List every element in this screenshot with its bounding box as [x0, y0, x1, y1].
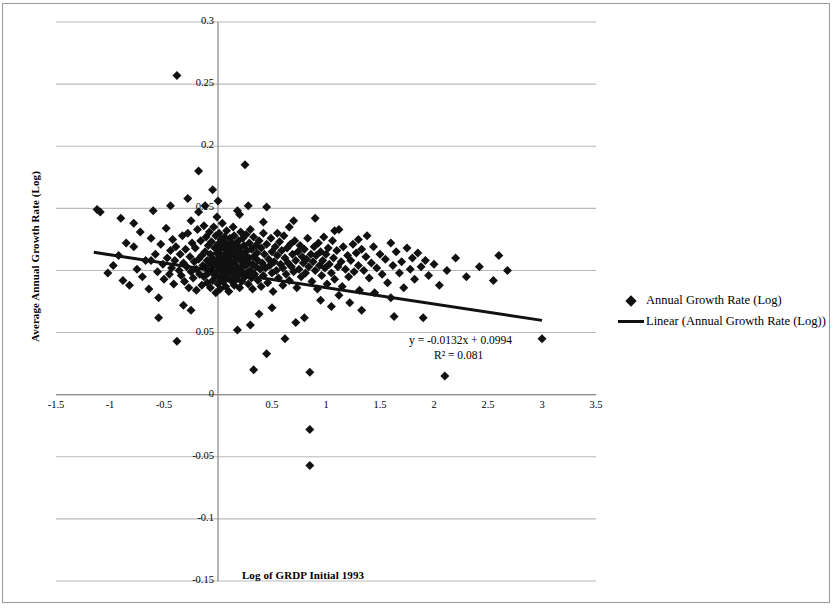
gridlines-group [56, 22, 596, 581]
x-tick-label: 3 [522, 399, 562, 410]
x-axis-title-text: Log of GRDP Initial 1993 [242, 569, 364, 581]
x-tick-label: 0.5 [252, 399, 292, 410]
y-tick-label: 0.2 [172, 139, 214, 150]
legend-item-scatter[interactable]: Annual Growth Rate (Log) [618, 290, 826, 311]
y-tick-label: 0.3 [172, 15, 214, 26]
axis-lines-group [56, 22, 596, 581]
r-squared-label: R² = 0.081 [434, 349, 483, 361]
scatter-chart-figure: -0.15-0.1-0.0500.050.10.150.20.250.3 -1.… [0, 0, 834, 613]
x-tick-label: 1 [306, 399, 346, 410]
x-tick-label: 2 [414, 399, 454, 410]
y-tick-label: -0.05 [172, 450, 214, 461]
y-tick-label: -0.1 [172, 512, 214, 523]
y-tick-label: 0.1 [172, 263, 214, 274]
line-marker-icon [618, 320, 644, 324]
y-tick-label: 0.05 [172, 326, 214, 337]
y-axis-title: Average Annual Growth Rate (Log) [29, 162, 42, 352]
y-axis-title-text: Average Annual Growth Rate (Log) [29, 171, 41, 342]
x-tick-label: 2.5 [468, 399, 508, 410]
legend-label-scatter: Annual Growth Rate (Log) [644, 290, 782, 311]
regression-equation-label: y = -0.0132x + 0.0994 [409, 334, 512, 346]
x-tick-label: -0.5 [144, 399, 184, 410]
x-axis-title: Log of GRDP Initial 1993 [178, 569, 428, 581]
x-tick-label: -1 [90, 399, 130, 410]
legend-label-trendline: Linear (Annual Growth Rate (Log)) [644, 311, 826, 332]
y-tick-label: 0 [172, 388, 214, 399]
chart-legend: Annual Growth Rate (Log) Linear (Annual … [618, 290, 826, 332]
legend-item-trendline[interactable]: Linear (Annual Growth Rate (Log)) [618, 311, 826, 332]
diamond-marker-icon [618, 297, 644, 305]
x-tick-label: -1.5 [36, 399, 76, 410]
x-tick-label: 3.5 [576, 399, 616, 410]
y-tick-label: 0.15 [172, 201, 214, 212]
y-tick-label: 0.25 [172, 77, 214, 88]
x-tick-label: 1.5 [360, 399, 400, 410]
trendline-group [94, 252, 542, 320]
